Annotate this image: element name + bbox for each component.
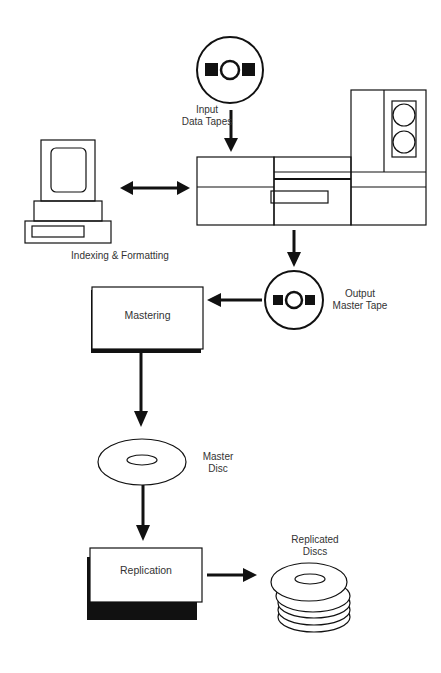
indexing-label-text: Indexing & Formatting bbox=[60, 250, 180, 262]
replication-box bbox=[87, 548, 202, 620]
output-master-tape-label: Output Master Tape bbox=[330, 288, 390, 312]
replicated-discs-label: Replicated Discs bbox=[280, 534, 350, 558]
arrow-replication-to-discs bbox=[207, 568, 257, 582]
input-label-line1: Input bbox=[172, 104, 242, 116]
replication-label: Replication bbox=[90, 564, 202, 576]
arrow-output-to-mastering bbox=[207, 293, 262, 307]
indexing-formatting-label: Indexing & Formatting bbox=[60, 250, 180, 262]
master-disc-line2: Disc bbox=[198, 463, 238, 475]
arrow-disc-to-replication bbox=[136, 485, 150, 541]
arrow-terminal-drive-bidirectional bbox=[120, 181, 190, 195]
mastering-label: Mastering bbox=[92, 309, 203, 321]
master-disc-label: Master Disc bbox=[198, 451, 238, 475]
input-data-tapes-label: Input Data Tapes bbox=[172, 104, 242, 128]
arrow-mastering-to-disc bbox=[134, 353, 148, 427]
output-tape-reel-icon bbox=[265, 271, 323, 329]
output-label-line2: Master Tape bbox=[330, 300, 390, 312]
computer-terminal-icon bbox=[25, 140, 111, 243]
process-diagram bbox=[0, 0, 441, 673]
input-label-line2: Data Tapes bbox=[172, 116, 242, 128]
master-disc-icon bbox=[98, 439, 186, 485]
input-tape-reel-icon bbox=[197, 37, 263, 103]
replicated-line2: Discs bbox=[280, 546, 350, 558]
master-disc-line1: Master bbox=[198, 451, 238, 463]
replicated-discs-stack-icon bbox=[271, 563, 350, 632]
arrow-drive-to-output bbox=[287, 230, 301, 267]
output-label-line1: Output bbox=[330, 288, 390, 300]
replicated-line1: Replicated bbox=[280, 534, 350, 546]
